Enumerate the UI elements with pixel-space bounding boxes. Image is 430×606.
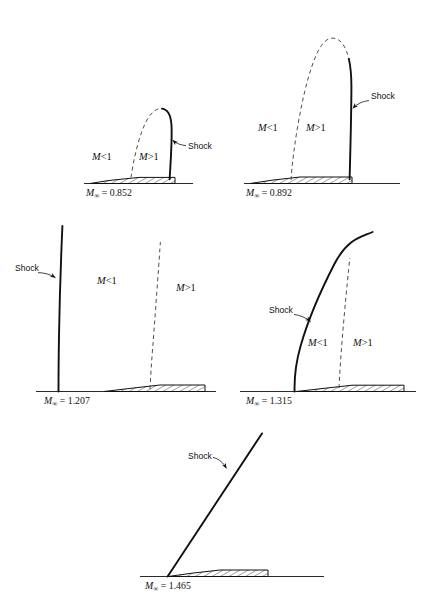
- panel-c-shock-label: Shock: [15, 263, 40, 273]
- panel-c-group: Shock M<1 M>1 M∞ = 1.207: [15, 226, 216, 408]
- panel-d-shock-label: Shock: [269, 305, 294, 315]
- panel-a-subsonic-label: M<1: [91, 151, 112, 162]
- transonic-flow-figure: Shock M<1 M>1 M∞ = 0.852 Shock M<1: [0, 0, 430, 606]
- panel-a-supersonic-label: M>1: [138, 151, 159, 162]
- panel-a-sonic-line: [131, 109, 162, 178]
- panel-b-mach-label: M∞ = 0.892: [245, 187, 292, 200]
- panel-b-shock-label: Shock: [371, 91, 396, 101]
- panel-a-mach-label: M∞ = 0.852: [85, 187, 132, 200]
- panel-a-shock-label: Shock: [188, 141, 213, 151]
- panel-d-sonic-line: [339, 258, 350, 388]
- panel-a-shock-line: [162, 109, 172, 180]
- panel-e-shock-line: [168, 433, 262, 576]
- panel-e-airfoil-hatch: [168, 570, 268, 577]
- panel-d-airfoil-hatch: [296, 385, 404, 391]
- panel-b-subsonic-label: M<1: [257, 122, 278, 133]
- panel-e-mach-label: M∞ = 1.465: [144, 580, 191, 593]
- panel-d-group: Shock M<1 M>1 M∞ = 1.315: [240, 232, 416, 408]
- panel-d-mach-label: M∞ = 1.315: [245, 395, 292, 408]
- panel-a-group: Shock M<1 M>1 M∞ = 0.852: [84, 109, 213, 201]
- panel-d-supersonic-label: M>1: [352, 337, 373, 348]
- panel-b-shock-line: [349, 59, 352, 180]
- panel-c-subsonic-label: M<1: [96, 275, 117, 286]
- panel-e-shock-label: Shock: [188, 451, 213, 461]
- panel-c-shock-leader: [38, 273, 55, 278]
- figure-canvas: Shock M<1 M>1 M∞ = 0.852 Shock M<1: [0, 0, 430, 606]
- panel-c-shock-line: [59, 226, 63, 392]
- panel-a-shock-leader: [173, 140, 186, 145]
- panel-b-group: Shock M<1 M>1 M∞ = 0.892: [244, 38, 400, 200]
- panel-e-shock-leader: [213, 457, 226, 468]
- panel-c-supersonic-label: M>1: [175, 282, 196, 293]
- panel-b-sonic-line: [291, 38, 349, 180]
- panel-c-mach-label: M∞ = 1.207: [43, 395, 90, 408]
- panel-c-sonic-line: [150, 242, 160, 389]
- panel-d-shock-line: [295, 232, 373, 392]
- panel-b-supersonic-label: M>1: [305, 122, 326, 133]
- panel-b-airfoil-hatch: [250, 177, 352, 184]
- panel-d-subsonic-label: M<1: [307, 337, 328, 348]
- panel-b-shock-leader: [353, 101, 369, 109]
- panel-e-group: Shock M∞ = 1.465: [140, 433, 324, 593]
